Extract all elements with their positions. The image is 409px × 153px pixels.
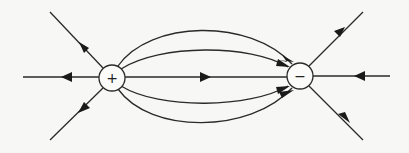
field-line-arc-inner-bottom [121,86,288,103]
negative-charge: − [287,63,313,89]
arrow-arc-outer-top-icon [279,55,294,62]
arrow-left-horizontal-icon [61,72,72,82]
positive-charge: + [99,65,125,91]
field-line-right-lower [309,86,363,140]
negative-sign: − [294,68,306,84]
positive-sign: + [106,70,118,86]
field-line-arc-outer-top [118,30,292,66]
field-line-arc-inner-top [121,50,288,69]
right-field-lines [309,12,390,140]
left-field-lines [23,12,103,140]
arrow-left-lower-icon [78,102,90,113]
connecting-field-lines [118,30,294,122]
arrow-right-horizontal-icon [354,71,365,81]
dipole-field-diagram: + − [0,0,409,153]
field-line-left-upper [50,12,103,68]
field-line-right-upper [309,12,363,66]
field-line-arc-outer-bottom [118,88,292,123]
field-line-left-lower [50,88,103,140]
arrow-axis-center-icon [200,72,211,82]
